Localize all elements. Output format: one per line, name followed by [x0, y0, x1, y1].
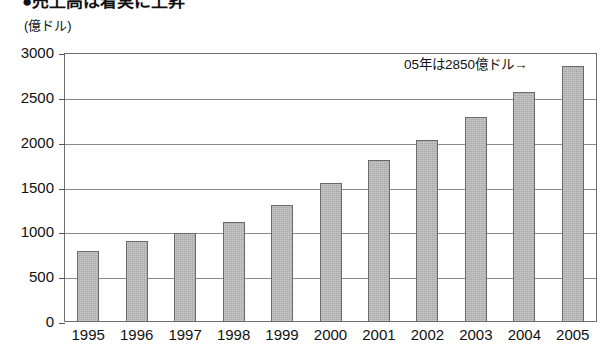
- y-axis-label-2000: 2000: [0, 135, 54, 150]
- bar-2005: [562, 66, 584, 322]
- chart-annotation: 05年は2850億ドル→: [404, 53, 528, 73]
- bar-1999: [271, 205, 293, 322]
- y-axis-label-500: 500: [0, 269, 54, 284]
- y-axis-label-2500: 2500: [0, 90, 54, 105]
- y-axis-label-0: 0: [0, 314, 54, 329]
- bar-1995: [77, 251, 99, 322]
- bar-1997: [174, 233, 196, 322]
- x-axis-label-2005: 2005: [543, 326, 603, 343]
- bar-1996: [126, 241, 148, 322]
- bar-2003: [465, 117, 487, 322]
- bar-1998: [223, 222, 245, 322]
- bar-2002: [416, 140, 438, 322]
- bar-2004: [513, 92, 535, 322]
- y-axis-label-3000: 3000: [0, 45, 54, 60]
- bar-2001: [368, 160, 390, 322]
- y-axis-label-1000: 1000: [0, 224, 54, 239]
- bar-2000: [320, 183, 342, 322]
- y-axis-label-1500: 1500: [0, 180, 54, 195]
